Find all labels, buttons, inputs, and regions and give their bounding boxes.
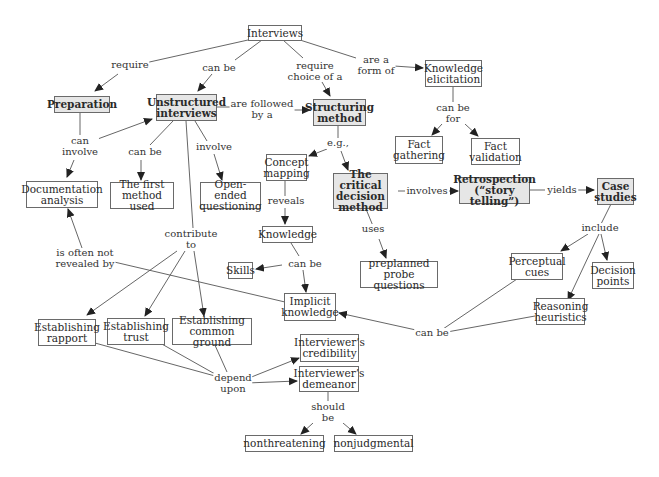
node-interviewers-demeanor: Interviewer’s demeanor <box>299 366 359 392</box>
link-can-involve: can involve <box>61 136 99 157</box>
node-perceptual-cues: Perceptual cues <box>511 253 563 280</box>
link-depend-upon: depend upon <box>213 373 252 394</box>
node-knowledge: Knowledge <box>262 226 313 243</box>
node-fact-validation: Fact validation <box>471 138 520 165</box>
link-can-be-first: can be <box>127 147 163 158</box>
node-establishing-rapport: Establishing rapport <box>38 319 96 346</box>
node-first-method-used: The first method used <box>110 182 174 209</box>
node-reasoning-heuristics: Reasoning heuristics <box>536 298 585 325</box>
link-can-be-unstructured: can be <box>201 63 237 74</box>
node-case-studies: Case studies <box>597 178 634 205</box>
link-require-choice-of-a: require choice of a <box>287 61 344 82</box>
node-concept-mapping: Concept mapping <box>266 154 307 181</box>
node-preparation: Preparation <box>54 96 110 113</box>
link-eg: e.g., <box>326 138 350 149</box>
node-knowledge-elicitation: Knowledge elicitation <box>425 60 482 87</box>
node-nonthreatening: nonthreatening <box>245 435 324 452</box>
node-interviewers-credibility: Interviewer’s credibility <box>300 334 359 362</box>
node-preplanned-probe-questions: preplanned probe questions <box>360 261 438 288</box>
link-involves: involves <box>405 186 448 197</box>
link-yields: yields <box>546 185 578 196</box>
link-can-be-implicit: can be <box>414 328 450 339</box>
node-open-ended-questioning: Open-ended questioning <box>200 182 261 209</box>
link-is-often-not-revealed-by: is often not revealed by <box>55 248 116 269</box>
node-retrospection: Retrospection (“story telling”) <box>459 177 530 204</box>
link-are-followed-by-a: are followed by a <box>230 99 295 120</box>
node-structuring-method: Structuring method <box>313 99 366 126</box>
link-contribute-to: contribute to <box>164 229 219 250</box>
node-critical-decision-method: The critical decision method <box>333 173 388 209</box>
node-documentation-analysis: Documentation analysis <box>26 181 98 208</box>
link-include: include <box>580 223 619 234</box>
link-can-be-knowledge: can be <box>287 259 323 270</box>
node-interviews: Interviews <box>248 25 302 41</box>
link-are-a-form-of: are a form of <box>357 55 396 76</box>
node-skills: Skills <box>228 262 253 279</box>
node-nonjudgmental: nonjudgmental <box>334 435 413 452</box>
concept-map: Interviews Preparation Unstructured inte… <box>0 0 659 477</box>
node-unstructured-interviews: Unstructured interviews <box>156 94 217 121</box>
link-should-be: should be <box>310 402 346 423</box>
link-reveals: reveals <box>267 196 306 207</box>
node-implicit-knowledge: Implicit knowledge <box>284 293 336 321</box>
node-establishing-common-ground: Establishing common ground <box>172 318 252 345</box>
link-require: require <box>110 60 149 71</box>
node-establishing-trust: Establishing trust <box>107 318 165 345</box>
node-decision-points: Decision points <box>592 262 634 289</box>
link-can-be-for: can be for <box>435 103 471 124</box>
link-involve: involve <box>195 142 233 153</box>
link-uses: uses <box>361 224 386 235</box>
node-fact-gathering: Fact gathering <box>395 136 443 164</box>
